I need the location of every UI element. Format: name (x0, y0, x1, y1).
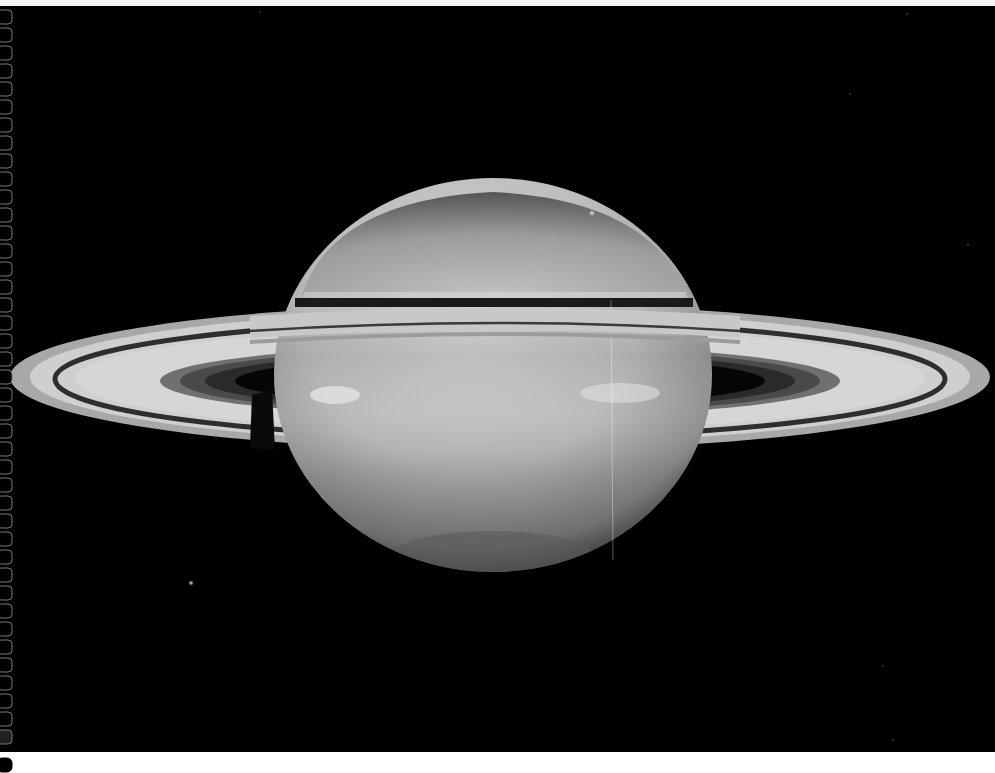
bright-cloud-right (580, 383, 660, 403)
moon (188, 580, 194, 586)
bright-cloud-left (310, 386, 360, 404)
planet (274, 178, 712, 579)
north-hemisphere (300, 192, 688, 300)
film-sprocket-holes (0, 10, 12, 772)
saturn-photo (0, 0, 995, 773)
moon (588, 209, 596, 217)
